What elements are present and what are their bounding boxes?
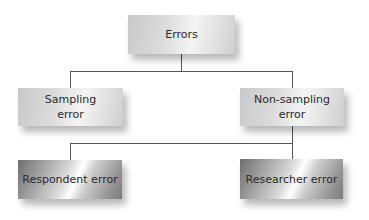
node-respondent-label: Respondent error <box>22 172 118 187</box>
node-sampling-label-line1: Sampling <box>45 92 97 107</box>
node-nonsampling-label-line2: error <box>254 107 330 122</box>
node-errors-label: Errors <box>165 27 198 42</box>
connector-level1-horizontal <box>70 71 293 72</box>
node-errors: Errors <box>128 15 235 54</box>
node-sampling-error: Sampling error <box>18 88 123 126</box>
connector-root-down <box>181 54 182 71</box>
connector-to-respondent <box>70 143 71 160</box>
node-nonsampling-label-line1: Non-sampling <box>254 92 330 107</box>
node-researcher-label: Researcher error <box>246 172 338 187</box>
node-researcher-error: Researcher error <box>240 159 343 199</box>
connector-level2-horizontal <box>70 143 293 144</box>
connector-to-nonsampling <box>292 71 293 88</box>
connector-to-sampling <box>70 71 71 88</box>
node-respondent-error: Respondent error <box>18 160 122 199</box>
node-non-sampling-error: Non-sampling error <box>240 88 344 126</box>
node-sampling-label-line2: error <box>45 107 97 122</box>
